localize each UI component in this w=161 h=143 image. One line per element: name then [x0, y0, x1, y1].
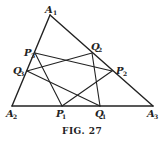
- label-a3: A 3: [146, 108, 158, 120]
- label-a1: A 1: [44, 4, 57, 16]
- svg-text:3: 3: [31, 52, 35, 59]
- svg-text:3: 3: [20, 70, 24, 77]
- edge-a1-a2: [12, 15, 50, 106]
- svg-text:A: A: [44, 4, 53, 15]
- svg-text:2: 2: [13, 113, 17, 120]
- segment-q3-q1: [27, 71, 100, 106]
- segment-q2-q1: [92, 53, 100, 106]
- svg-text:1: 1: [53, 9, 57, 16]
- segment-p3-p2: [35, 53, 112, 71]
- label-a2: A 2: [5, 108, 17, 120]
- label-q1: Q 1: [95, 108, 106, 120]
- svg-text:1: 1: [62, 113, 66, 120]
- label-q3: Q 3: [13, 65, 24, 77]
- svg-text:2: 2: [98, 46, 102, 53]
- svg-text:3: 3: [154, 113, 158, 120]
- label-p3: P 3: [23, 47, 35, 59]
- svg-text:1: 1: [102, 113, 106, 120]
- label-p1: P 1: [55, 108, 66, 120]
- segment-p3-p1: [35, 53, 62, 106]
- svg-text:2: 2: [123, 70, 127, 77]
- figure-27-diagram: A 1 A 2 A 3 P 1 Q 1 P 2 Q 2 P 3 Q 3 FIG.…: [0, 0, 161, 143]
- segment-p2-p1: [62, 71, 112, 106]
- figure-caption: FIG. 27: [62, 126, 102, 136]
- label-p2: P 2: [115, 65, 127, 77]
- label-q2: Q 2: [91, 41, 102, 53]
